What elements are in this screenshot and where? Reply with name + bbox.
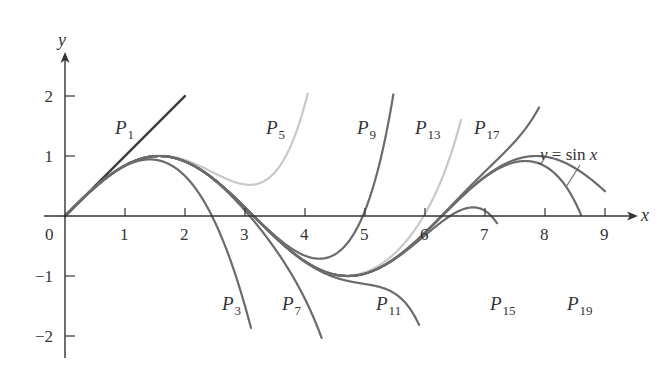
sin-label-group: y = sin x	[538, 145, 598, 187]
label-p15: P15	[489, 293, 516, 318]
label-p7: P7	[281, 293, 302, 318]
x-axis-label: x	[640, 205, 649, 225]
label-p9: P9	[356, 117, 376, 142]
y-tick-label: 1	[45, 147, 54, 166]
x-tick-label: 5	[360, 225, 369, 244]
curve-labels: P1P3P5P7P9P11P13P15P17P19	[114, 117, 593, 318]
label-p13: P13	[414, 117, 441, 142]
x-tick-label: 1	[120, 225, 129, 244]
taylor-polynomials-chart: 123456789 −2−112 x y 0 P1P3P5P7P9P11P13P…	[0, 0, 671, 369]
x-tick-label: 8	[540, 225, 549, 244]
y-tick-label: −2	[35, 327, 53, 346]
label-p17: P17	[473, 117, 500, 142]
sin-leader-line	[566, 165, 580, 187]
x-tick-label: 6	[420, 225, 429, 244]
sin-label-eq: = sin	[548, 145, 590, 164]
x-tick-label: 2	[180, 225, 189, 244]
label-p19: P19	[566, 293, 593, 318]
sin-curve-label: y = sin x	[538, 145, 598, 164]
y-tick-label: −1	[35, 267, 53, 286]
x-tick-label: 9	[600, 225, 609, 244]
label-p11: P11	[375, 293, 401, 318]
label-p3: P3	[221, 293, 241, 318]
axes-layer: 123456789 −2−112 x y 0	[35, 30, 649, 358]
sin-label-y: y	[538, 145, 548, 164]
x-tick-label: 4	[300, 225, 309, 244]
x-tick-label: 7	[480, 225, 489, 244]
curve-p5	[65, 94, 308, 216]
sin-label-x: x	[589, 145, 598, 164]
label-p1: P1	[114, 117, 134, 142]
y-tick-label: 2	[45, 87, 54, 106]
label-p5: P5	[265, 117, 285, 142]
x-tick-label: 3	[240, 225, 249, 244]
y-axis-label: y	[56, 30, 66, 50]
origin-label: 0	[45, 225, 54, 244]
